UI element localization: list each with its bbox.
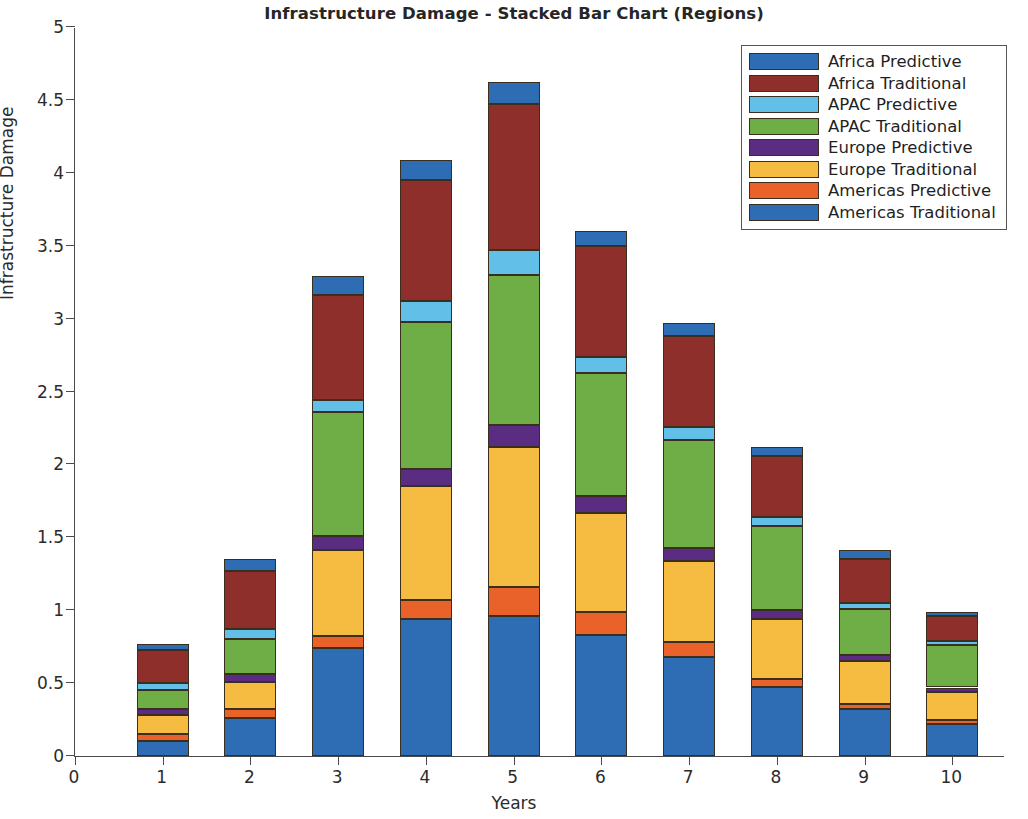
bar-segment[interactable]	[575, 496, 627, 512]
bar-segment[interactable]	[224, 571, 276, 629]
bar-segment[interactable]	[926, 688, 978, 692]
bar-segment[interactable]	[751, 679, 803, 688]
bar-segment[interactable]	[926, 616, 978, 641]
bar-segment[interactable]	[839, 609, 891, 656]
bar-segment[interactable]	[224, 674, 276, 681]
bar-segment[interactable]	[400, 600, 452, 619]
y-tick-label: 0	[8, 746, 64, 766]
bar-segment[interactable]	[400, 301, 452, 321]
legend-item[interactable]: Americas Predictive	[749, 180, 999, 202]
bar-segment[interactable]	[400, 469, 452, 486]
bar-segment[interactable]	[224, 559, 276, 571]
bar-segment[interactable]	[312, 550, 364, 636]
bar-stack[interactable]	[137, 644, 189, 756]
bar-stack[interactable]	[663, 323, 715, 756]
bar-segment[interactable]	[575, 246, 627, 357]
bar-segment[interactable]	[751, 610, 803, 619]
bar-segment[interactable]	[926, 645, 978, 687]
bar-segment[interactable]	[926, 720, 978, 724]
bar-segment[interactable]	[751, 687, 803, 756]
bar-segment[interactable]	[663, 561, 715, 643]
bar-segment[interactable]	[926, 724, 978, 756]
bar-segment[interactable]	[575, 231, 627, 246]
bar-segment[interactable]	[137, 644, 189, 650]
bar-segment[interactable]	[839, 661, 891, 703]
bar-stack[interactable]	[488, 82, 540, 756]
bar-segment[interactable]	[488, 82, 540, 104]
bar-segment[interactable]	[400, 322, 452, 469]
bar-segment[interactable]	[488, 587, 540, 616]
bar-segment[interactable]	[839, 550, 891, 559]
legend-item[interactable]: Europe Predictive	[749, 137, 999, 159]
bar-segment[interactable]	[488, 250, 540, 275]
bar-stack[interactable]	[751, 447, 803, 756]
bar-segment[interactable]	[400, 160, 452, 180]
bar-stack[interactable]	[400, 160, 452, 756]
bar-segment[interactable]	[751, 517, 803, 526]
bar-segment[interactable]	[575, 612, 627, 635]
bar-segment[interactable]	[224, 629, 276, 639]
bar-segment[interactable]	[400, 180, 452, 301]
bar-segment[interactable]	[751, 447, 803, 456]
bar-segment[interactable]	[137, 709, 189, 715]
bar-segment[interactable]	[575, 513, 627, 612]
bar-segment[interactable]	[312, 412, 364, 536]
bar-segment[interactable]	[312, 400, 364, 412]
bar-segment[interactable]	[663, 440, 715, 548]
bar-stack[interactable]	[224, 559, 276, 756]
legend-item[interactable]: Africa Predictive	[749, 51, 999, 73]
bar-segment[interactable]	[488, 425, 540, 447]
bar-segment[interactable]	[926, 612, 978, 616]
legend-item[interactable]: APAC Traditional	[749, 116, 999, 138]
bar-segment[interactable]	[663, 336, 715, 426]
bar-segment[interactable]	[137, 715, 189, 734]
bar-segment[interactable]	[663, 427, 715, 440]
bar-segment[interactable]	[751, 526, 803, 611]
bar-segment[interactable]	[312, 295, 364, 400]
bar-segment[interactable]	[839, 709, 891, 756]
bar-segment[interactable]	[839, 559, 891, 603]
bar-segment[interactable]	[663, 642, 715, 657]
bar-segment[interactable]	[926, 692, 978, 720]
bar-segment[interactable]	[400, 486, 452, 600]
bar-segment[interactable]	[137, 683, 189, 690]
bar-segment[interactable]	[224, 682, 276, 710]
legend-item[interactable]: APAC Predictive	[749, 94, 999, 116]
bar-segment[interactable]	[926, 641, 978, 645]
bar-segment[interactable]	[575, 357, 627, 373]
legend-item[interactable]: Americas Traditional	[749, 202, 999, 224]
bar-segment[interactable]	[751, 619, 803, 679]
bar-segment[interactable]	[137, 690, 189, 709]
bar-segment[interactable]	[839, 603, 891, 609]
legend-item[interactable]: Europe Traditional	[749, 159, 999, 181]
bar-segment[interactable]	[224, 718, 276, 756]
bar-stack[interactable]	[312, 276, 364, 756]
bar-segment[interactable]	[312, 636, 364, 648]
bar-segment[interactable]	[663, 548, 715, 561]
bar-segment[interactable]	[312, 536, 364, 551]
bar-segment[interactable]	[751, 456, 803, 517]
bar-segment[interactable]	[488, 104, 540, 250]
bar-segment[interactable]	[137, 741, 189, 756]
bar-segment[interactable]	[400, 619, 452, 756]
bar-segment[interactable]	[224, 709, 276, 718]
bar-segment[interactable]	[839, 704, 891, 710]
legend-item[interactable]: Africa Traditional	[749, 73, 999, 95]
bar-segment[interactable]	[488, 616, 540, 756]
bar-segment[interactable]	[575, 373, 627, 497]
bar-stack[interactable]	[839, 550, 891, 756]
y-tick	[66, 99, 75, 100]
bar-segment[interactable]	[137, 734, 189, 741]
bar-segment[interactable]	[663, 657, 715, 756]
bar-stack[interactable]	[575, 231, 627, 756]
bar-segment[interactable]	[137, 650, 189, 684]
bar-stack[interactable]	[926, 612, 978, 756]
bar-segment[interactable]	[488, 275, 540, 425]
bar-segment[interactable]	[663, 323, 715, 336]
bar-segment[interactable]	[488, 447, 540, 587]
bar-segment[interactable]	[312, 648, 364, 756]
bar-segment[interactable]	[839, 655, 891, 661]
bar-segment[interactable]	[575, 635, 627, 756]
bar-segment[interactable]	[224, 639, 276, 674]
bar-segment[interactable]	[312, 276, 364, 295]
